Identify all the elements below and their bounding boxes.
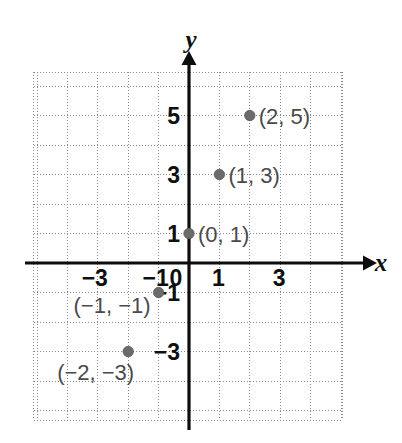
data-point-marker [184,228,194,238]
data-point-label: (2, 5) [259,104,310,129]
coordinate-plane-figure: −3−1013531−1−3 (2, 5)(1, 3)(0, 1)(−1, −1… [0,0,402,443]
x-tick-label: −3 [82,265,108,291]
x-tick-label: 1 [212,265,225,291]
data-point-marker [153,287,163,297]
y-tick-label: 1 [167,221,180,247]
data-point-marker [123,346,133,356]
y-tick-label: −3 [154,339,180,365]
y-axis-name: y [182,26,197,53]
x-tick-label: 3 [273,265,286,291]
data-point-marker [214,169,224,179]
y-tick-label: 5 [167,103,180,129]
point-labels: (2, 5)(1, 3)(0, 1)(−1, −1)(−2, −3) [57,104,310,385]
coordinate-plane-svg: −3−1013531−1−3 (2, 5)(1, 3)(0, 1)(−1, −1… [0,0,402,443]
data-point-label: (0, 1) [198,222,249,247]
data-point-marker [245,110,255,120]
data-point-label: (1, 3) [228,163,279,188]
x-axis-name: x [374,249,388,276]
data-point-label: (−1, −1) [74,293,151,318]
data-point-label: (−2, −3) [57,360,134,385]
y-tick-label: 3 [167,162,180,188]
y-axis-arrowhead [182,51,197,65]
